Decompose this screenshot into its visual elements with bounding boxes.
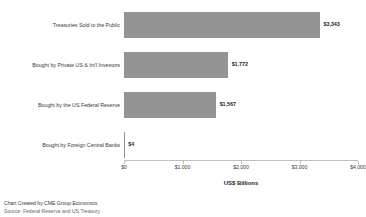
footer-source: Source: Federal Reserve and US Treasury — [4, 207, 254, 215]
bar-value-label: $1,772 — [232, 62, 248, 67]
bar-row: $4 — [124, 132, 134, 158]
x-axis-title: US$ Billions — [124, 180, 358, 186]
category-axis: Treasuries Sold to the Public Bought by … — [0, 8, 120, 160]
chart-footer: Chart Created by CME Group Economics Sou… — [4, 199, 254, 215]
bar-treasuries-sold-to-public — [124, 12, 320, 38]
bar-row: $1,772 — [124, 52, 248, 78]
x-axis-tick-label: $2,000 — [233, 165, 249, 170]
plot-area: $3,343 $1,772 $1,567 $4 — [124, 8, 358, 160]
bar-row: $1,567 — [124, 92, 236, 118]
bar-private-investors — [124, 52, 228, 78]
bar-row: $3,343 — [124, 12, 340, 38]
x-axis-tick-label: $0 — [121, 165, 127, 170]
x-axis-tick-label: $4,000 — [350, 165, 366, 170]
category-label-foreign-central-banks: Bought by Foreign Central Banks — [2, 143, 120, 148]
category-label-private-investors: Bought by Private US & Int'l Investors — [2, 63, 120, 68]
bar-us-federal-reserve — [124, 92, 216, 118]
bar-value-label: $4 — [128, 142, 134, 147]
x-axis-tick-label: $3,000 — [292, 165, 308, 170]
x-axis-tick-label: $1,000 — [175, 165, 191, 170]
footer-credit: Chart Created by CME Group Economics — [4, 199, 254, 207]
bar-value-label: $3,343 — [324, 22, 340, 27]
bar-value-label: $1,567 — [220, 102, 236, 107]
bar-chart: Treasuries Sold to the Public Bought by … — [0, 0, 366, 217]
category-label-us-federal-reserve: Bought by the US Federal Reserve — [2, 103, 120, 108]
category-label-treasuries-sold-to-public: Treasuries Sold to the Public — [2, 23, 120, 28]
